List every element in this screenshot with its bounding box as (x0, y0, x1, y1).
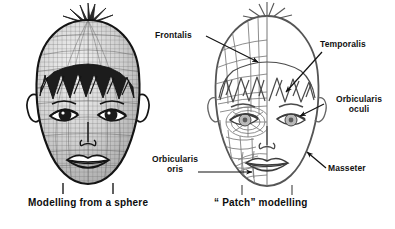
label-orbicularis-oculi: Orbicularis oculi (326, 95, 392, 115)
label-orbicularis-oculi-line1: Orbicularis (336, 94, 382, 104)
label-masseter: Masseter (328, 164, 366, 174)
label-orbicularis-oris-line1: Orbicularis (152, 154, 198, 164)
left-head-group (27, 3, 150, 194)
label-orbicularis-oculi-line2: oculi (349, 104, 369, 114)
label-frontalis: Frontalis (155, 31, 192, 41)
caption-right-figure: “ Patch” modelling (214, 197, 308, 208)
label-orbicularis-oris: Orbicularis oris (148, 155, 202, 175)
right-head-group (208, 2, 326, 195)
label-temporalis: Temporalis (320, 40, 366, 50)
caption-left-figure: Modelling from a sphere (28, 197, 148, 208)
anatomy-modelling-figure: Frontalis Temporalis Orbicularis oculi O… (0, 0, 395, 229)
leader-masseter (307, 152, 326, 168)
label-orbicularis-oris-line2: oris (167, 164, 183, 174)
